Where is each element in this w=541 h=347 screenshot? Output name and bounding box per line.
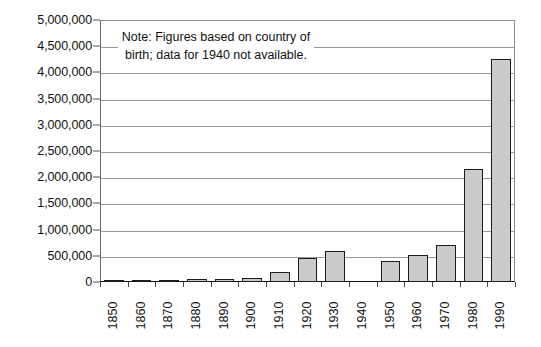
- y-tick-mark: [93, 98, 100, 99]
- x-tick-mark: [294, 282, 295, 287]
- y-tick-label: 0: [0, 276, 92, 289]
- x-tick-label-text: 1900: [246, 302, 259, 330]
- x-tick-label-1980: 1980: [460, 288, 488, 322]
- x-tick-label-text: 1850: [107, 302, 120, 330]
- bar-1920: [298, 258, 318, 282]
- bar-slot-1970: [432, 20, 460, 282]
- bar-1930: [325, 251, 345, 282]
- x-tick-label-1990: 1990: [487, 288, 515, 322]
- y-tick-label: 3,000,000: [0, 119, 92, 132]
- x-tick-mark: [155, 282, 156, 287]
- bar-1960: [408, 255, 428, 282]
- bar-slot-1990: [487, 20, 515, 282]
- x-tick-mark: [183, 282, 184, 287]
- x-tick-label-1910: 1910: [266, 288, 294, 322]
- y-tick-mark: [93, 229, 100, 230]
- y-tick-mark: [93, 46, 100, 47]
- bar-slot-1960: [404, 20, 432, 282]
- x-tick-label-text: 1880: [190, 302, 203, 330]
- data-source-note: Note: Figures based on country of birth;…: [118, 28, 314, 65]
- y-tick-label: 4,500,000: [0, 40, 92, 53]
- y-tick-label: 1,000,000: [0, 223, 92, 236]
- bar-1990: [491, 59, 511, 282]
- x-axis-ticks: [100, 282, 515, 287]
- bar-slot-1950: [377, 20, 405, 282]
- bar-1980: [464, 169, 484, 282]
- x-axis: 1850186018701880189019001910192019301940…: [100, 288, 515, 346]
- x-tick-mark: [238, 282, 239, 287]
- y-tick-label: 1,500,000: [0, 197, 92, 210]
- x-tick-mark: [211, 282, 212, 287]
- y-axis: 0500,0001,000,0001,500,0002,000,0002,500…: [0, 0, 92, 347]
- x-tick-mark: [432, 282, 433, 287]
- bar-1910: [270, 272, 290, 282]
- y-tick-mark: [93, 124, 100, 125]
- x-tick-label-text: 1970: [439, 302, 452, 330]
- x-tick-mark: [321, 282, 322, 287]
- y-tick-label: 500,000: [0, 250, 92, 263]
- y-tick-mark: [93, 282, 100, 283]
- y-tick-mark: [93, 203, 100, 204]
- x-tick-mark: [349, 282, 350, 287]
- bar-slot-1940: [349, 20, 377, 282]
- x-tick-label-1960: 1960: [404, 288, 432, 322]
- x-tick-label-1850: 1850: [100, 288, 128, 322]
- bar-1950: [381, 261, 401, 282]
- y-tick-mark: [93, 151, 100, 152]
- x-tick-label-1890: 1890: [211, 288, 239, 322]
- x-tick-mark: [266, 282, 267, 287]
- x-tick-label-1970: 1970: [432, 288, 460, 322]
- x-tick-label-1900: 1900: [238, 288, 266, 322]
- x-tick-label-text: 1890: [218, 302, 231, 330]
- x-tick-mark: [377, 282, 378, 287]
- x-tick-label-text: 1930: [329, 302, 342, 330]
- x-tick-mark: [460, 282, 461, 287]
- x-tick-label-text: 1960: [412, 302, 425, 330]
- y-tick-label: 4,000,000: [0, 66, 92, 79]
- y-tick-mark: [93, 20, 100, 21]
- x-tick-label-1930: 1930: [321, 288, 349, 322]
- x-tick-label-text: 1990: [495, 302, 508, 330]
- x-tick-label-text: 1920: [301, 302, 314, 330]
- y-tick-label: 2,000,000: [0, 171, 92, 184]
- x-tick-label-1870: 1870: [155, 288, 183, 322]
- bar-chart-figure: 0500,0001,000,0001,500,0002,000,0002,500…: [0, 0, 541, 347]
- x-tick-mark: [100, 282, 101, 287]
- x-tick-label-text: 1870: [163, 302, 176, 330]
- x-tick-label-text: 1980: [467, 302, 480, 330]
- x-tick-label-text: 1860: [135, 302, 148, 330]
- x-tick-label-1860: 1860: [128, 288, 156, 322]
- y-tick-label: 5,000,000: [0, 14, 92, 27]
- y-tick-mark: [93, 177, 100, 178]
- x-tick-mark: [515, 282, 516, 287]
- x-tick-mark: [487, 282, 488, 287]
- x-tick-mark: [404, 282, 405, 287]
- x-tick-mark: [128, 282, 129, 287]
- y-tick-label: 2,500,000: [0, 145, 92, 158]
- y-tick-label: 3,500,000: [0, 92, 92, 105]
- x-tick-label-1880: 1880: [183, 288, 211, 322]
- x-tick-label-text: 1950: [384, 302, 397, 330]
- x-tick-label-1940: 1940: [349, 288, 377, 322]
- x-tick-label-text: 1910: [273, 302, 286, 330]
- x-tick-label-text: 1940: [356, 302, 369, 330]
- bar-1970: [436, 245, 456, 282]
- x-tick-label-1950: 1950: [377, 288, 405, 322]
- y-tick-mark: [93, 255, 100, 256]
- bar-slot-1930: [321, 20, 349, 282]
- x-tick-label-1920: 1920: [294, 288, 322, 322]
- bar-slot-1980: [460, 20, 488, 282]
- y-tick-mark: [93, 72, 100, 73]
